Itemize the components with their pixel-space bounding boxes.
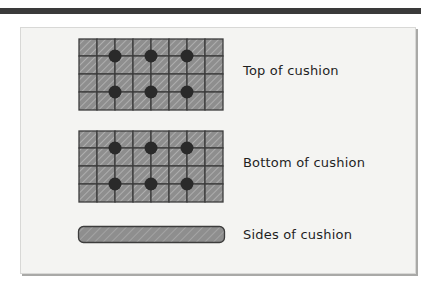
bottom-cushion-grid-icon — [78, 130, 224, 203]
sides-of-cushion-label: Sides of cushion — [243, 227, 352, 242]
diagram-panel: Top of cushion Bottom of cushion — [20, 27, 416, 274]
sides-cushion-strip-icon — [77, 225, 227, 245]
bottom-of-cushion-label: Bottom of cushion — [243, 155, 365, 170]
top-cushion-grid-icon — [78, 38, 224, 111]
top-of-cushion-label: Top of cushion — [243, 63, 339, 78]
top-rule — [0, 8, 421, 14]
